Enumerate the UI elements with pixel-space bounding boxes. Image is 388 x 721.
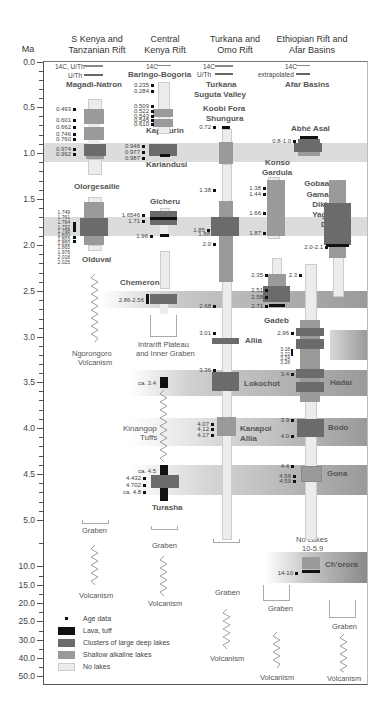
c4-shallow-gobaad-2 — [329, 247, 346, 258]
c2-graben-bracket — [151, 526, 178, 530]
axis-tick-label: 0.0 — [0, 57, 35, 67]
no-lakes-swatch-icon — [58, 663, 75, 671]
age-label: 3.36 — [188, 367, 216, 373]
axis-major-tick — [37, 676, 43, 677]
axis-minor-tick — [39, 465, 43, 466]
age-label: 1.66 — [242, 210, 266, 216]
basin-olduvai: Olduvai — [82, 255, 111, 265]
c3-deep-2 — [212, 338, 239, 344]
axis-minor-tick — [39, 135, 43, 136]
axis-tick-label: 3.0 — [0, 332, 35, 342]
axis-tick-label: 3.5 — [0, 377, 35, 387]
axis-minor-tick — [39, 171, 43, 172]
axis-minor-tick — [39, 162, 43, 163]
c4-deep-h2 — [296, 339, 324, 349]
axis-tick-label: 30.0 — [0, 635, 35, 645]
age-label: 2.68 — [188, 303, 216, 309]
age-label: ca. 3.4 — [120, 380, 156, 386]
age-label: 1.38 — [188, 187, 216, 193]
axis-minor-tick — [39, 319, 43, 320]
method-line — [215, 73, 233, 75]
method-line — [296, 73, 310, 75]
note-graben-c4a: Graben — [268, 604, 293, 613]
age-label: 3.28 — [270, 359, 290, 365]
axis-minor-tick — [39, 273, 43, 274]
axis-minor-tick — [39, 89, 43, 90]
basin-koobi-fora: Koobi Fora — [203, 104, 245, 114]
c2-nolakes-5 — [160, 304, 168, 314]
c1-deep-2 — [80, 218, 108, 236]
axis-minor-tick — [39, 300, 43, 301]
note-volcanism-c3: Volcanism — [210, 654, 244, 663]
age-label: 14-10 — [268, 570, 298, 576]
c2-lava-2 — [150, 217, 177, 220]
basin-chemeron: Chemeron — [120, 278, 160, 288]
age-label: 4.4 — [270, 463, 294, 469]
axis-major-tick — [37, 382, 43, 383]
basin-turasha: Turasha — [152, 503, 183, 513]
method-key-col1-a: 14C, U/Th — [55, 64, 85, 70]
c4-graben-bracket-2 — [329, 600, 356, 618]
age-label: 0.284 — [120, 88, 154, 94]
note-volcanism-c4b: Volcanism — [327, 674, 361, 683]
c4-shallow-gobaad — [329, 180, 346, 204]
lava-swatch-icon — [58, 627, 75, 635]
axis-major-tick — [37, 337, 43, 338]
legend-label: Clusters of large deep lakes — [83, 638, 170, 648]
axis-minor-tick — [39, 594, 43, 595]
legend-label: No lakes — [83, 662, 110, 672]
axis-minor-tick — [39, 208, 43, 209]
basin-baringo-bogoria: Baringo-Bogoria — [128, 70, 191, 80]
c1-graben-bracket — [82, 520, 109, 524]
volcanism-zigzag-c1 — [90, 545, 100, 587]
basin-abhe-asal: Abhé Asal — [291, 124, 330, 134]
age-label: 1.87 — [242, 230, 266, 236]
axis-major-tick — [37, 107, 43, 108]
header-line: Central — [150, 34, 179, 44]
axis-minor-tick — [39, 437, 43, 438]
c1-nolakes-6 — [88, 245, 102, 251]
label-no-lakes-range: 10-5.9 — [302, 544, 323, 553]
axis-minor-tick — [39, 309, 43, 310]
header-line: Kenya Rift — [144, 45, 186, 55]
axis-major-tick — [37, 603, 43, 604]
axis-tick-label: 4.5 — [0, 469, 35, 479]
axis-minor-tick — [39, 263, 43, 264]
method-line — [296, 65, 310, 66]
method-line — [84, 65, 103, 67]
age-label: 2.86-2.56 — [108, 297, 144, 303]
method-key-col1-b: U/Th — [68, 73, 82, 79]
age-label: 0.493 — [46, 106, 76, 112]
c4-deep-bodo — [297, 419, 324, 437]
c4-shallow-konso — [267, 180, 285, 236]
label-tuffs: Tuffs — [140, 433, 157, 442]
basin-allia-2: Allia — [240, 434, 257, 444]
c4-graben-bracket-1 — [263, 585, 290, 601]
basin-afar: Afar Basins — [285, 80, 329, 90]
axis-minor-tick — [39, 116, 43, 117]
note-graben-c2: Graben — [152, 541, 177, 550]
axis-minor-tick — [39, 328, 43, 329]
axis-major-tick — [37, 62, 43, 63]
axis-minor-tick — [39, 98, 43, 99]
axis-minor-tick — [39, 236, 43, 237]
c3-shallow-4 — [219, 252, 233, 282]
c2-lava-3 — [160, 234, 169, 237]
basin-konso: Konso — [265, 158, 290, 168]
c4-shallow-abhe — [298, 152, 320, 156]
volcanism-zigzag-c4b — [339, 634, 349, 674]
axis-minor-tick — [39, 355, 43, 356]
axis-major-tick — [37, 566, 43, 567]
note-graben-c4b: Graben — [332, 622, 357, 631]
age-label: 3.9 — [270, 417, 294, 423]
volcanism-zigzag-kinangop — [159, 390, 169, 464]
age-label: 2.58 — [244, 294, 268, 300]
c2-shallow-3 — [151, 475, 179, 488]
axis-minor-tick — [39, 410, 43, 411]
basin-gicheru: Gicheru — [150, 197, 180, 207]
note-volcanism-c1: Volcanism — [79, 591, 113, 600]
basin-gadeb: Gadeb — [264, 316, 289, 326]
c1-shallow-1 — [84, 109, 104, 124]
age-label: 2.0 — [188, 241, 216, 247]
age-label: 2.3 — [282, 272, 302, 278]
